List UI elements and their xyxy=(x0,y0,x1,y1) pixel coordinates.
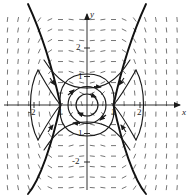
field-dash xyxy=(69,166,74,167)
field-dash xyxy=(69,145,74,146)
field-dash xyxy=(18,28,19,33)
field-dash xyxy=(69,134,74,136)
field-dash xyxy=(7,175,8,180)
field-dash xyxy=(123,80,126,84)
field-dash xyxy=(49,112,50,117)
field-dash xyxy=(18,17,19,22)
field-dash xyxy=(18,154,19,159)
y-tick-label-pos2: 2 xyxy=(76,43,81,52)
field-dash xyxy=(69,61,74,62)
field-dash xyxy=(18,59,19,64)
field-dash xyxy=(123,122,125,126)
field-dash xyxy=(48,165,52,168)
field-dash xyxy=(156,38,157,43)
field-dash xyxy=(101,71,106,73)
upper-left-branch xyxy=(28,4,61,105)
y-axis-label: y xyxy=(90,10,94,19)
field-dash xyxy=(134,164,136,168)
field-dash xyxy=(69,19,74,20)
field-dash xyxy=(39,122,40,127)
field-dash xyxy=(145,143,146,148)
field-dash xyxy=(28,175,29,180)
field-dash xyxy=(48,50,52,53)
field-dash xyxy=(122,176,126,178)
field-dash xyxy=(156,49,157,54)
x-tick-label-pos2: 2 xyxy=(137,108,142,117)
phase-portrait-figure: x y -2 1 1 2 2 1 1 -2 xyxy=(0,0,195,196)
field-dash xyxy=(28,143,29,148)
field-dash xyxy=(79,156,84,157)
field-dash xyxy=(28,154,29,159)
field-dash xyxy=(166,17,167,22)
field-dash xyxy=(122,187,127,189)
field-dash xyxy=(28,28,29,33)
field-dash xyxy=(100,40,105,41)
field-dash xyxy=(122,165,126,168)
field-dash xyxy=(38,17,41,21)
field-dash xyxy=(90,92,95,94)
x-tick-label-pos1: 1 xyxy=(111,108,116,117)
field-dash xyxy=(18,38,19,43)
field-dash xyxy=(133,17,136,21)
field-dash xyxy=(100,177,105,178)
x-tick-label-neg1: 1 xyxy=(58,108,63,117)
field-dash xyxy=(49,122,51,126)
field-dash xyxy=(101,81,106,83)
field-dash xyxy=(100,51,105,52)
field-dash xyxy=(79,92,84,94)
x-axis-label: x xyxy=(182,108,186,117)
field-dash xyxy=(69,71,74,73)
field-dash xyxy=(155,28,156,33)
field-dash xyxy=(145,49,146,54)
field-dash xyxy=(155,185,156,190)
field-dash xyxy=(90,82,95,83)
field-dash xyxy=(100,156,105,157)
field-dash xyxy=(48,18,53,20)
field-dash xyxy=(28,59,29,64)
field-dash xyxy=(144,17,146,22)
field-dash xyxy=(90,124,95,125)
y-tick-label-pos1: 1 xyxy=(78,72,83,81)
field-dash xyxy=(134,143,136,148)
field-dash xyxy=(122,50,126,53)
field-dash xyxy=(122,18,127,20)
field-dash xyxy=(69,30,74,31)
field-dash xyxy=(79,124,84,125)
field-dash xyxy=(134,122,135,127)
field-dash xyxy=(90,51,95,52)
field-dash xyxy=(79,145,84,146)
field-dash xyxy=(101,134,106,136)
field-dash xyxy=(166,28,167,33)
field-dash xyxy=(18,49,19,54)
field-dash xyxy=(145,175,146,180)
field-dash xyxy=(145,59,146,64)
field-dash xyxy=(90,61,95,62)
direction-field xyxy=(7,17,177,190)
field-dash xyxy=(100,145,105,146)
field-dash xyxy=(100,187,105,188)
field-dash xyxy=(100,30,105,31)
field-dash xyxy=(156,154,157,159)
field-dash xyxy=(69,177,74,178)
field-dash xyxy=(124,112,125,117)
field-dash xyxy=(123,133,126,137)
field-dash xyxy=(134,59,136,64)
field-dash xyxy=(145,154,146,159)
field-dash xyxy=(133,38,135,42)
field-dash xyxy=(145,70,146,75)
field-dash xyxy=(38,186,41,190)
field-dash xyxy=(69,187,74,188)
field-dash xyxy=(133,186,136,190)
field-dash xyxy=(79,82,84,83)
field-dash xyxy=(38,38,40,42)
field-dash xyxy=(145,164,146,169)
field-dash xyxy=(18,164,19,169)
y-tick-label-neg2: -2 xyxy=(72,157,80,166)
field-dash xyxy=(18,175,19,180)
field-dash xyxy=(100,19,105,20)
plot-canvas xyxy=(0,0,195,196)
field-dash xyxy=(145,28,146,33)
field-dash xyxy=(28,185,30,190)
x-tick-label-neg2: -2 xyxy=(28,108,36,117)
field-dash xyxy=(134,91,135,96)
